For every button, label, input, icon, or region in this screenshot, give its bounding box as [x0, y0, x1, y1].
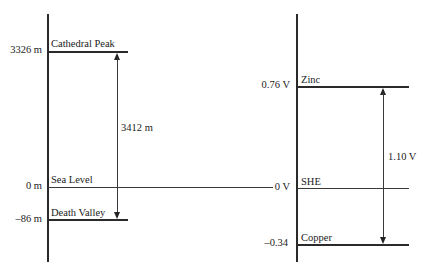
right-level-value-copper: –0.34: [240, 237, 288, 249]
left-level-name-death-valley: Death Valley: [51, 207, 105, 219]
right-vertical-axis: [296, 14, 298, 262]
level-line-death-valley: [48, 219, 128, 221]
left-level-name-cathedral-peak: Cathedral Peak: [51, 38, 115, 50]
level-line-zinc: [297, 86, 409, 88]
right-level-name-copper: Copper: [301, 232, 332, 244]
left-difference-label: 3412 m: [121, 122, 153, 134]
arrow-head-down-icon: [380, 237, 386, 244]
right-level-name-she: SHE: [301, 176, 321, 188]
level-line-copper: [297, 244, 409, 246]
arrow-head-down-icon: [114, 212, 120, 219]
left-level-value-cathedral-peak: 3326 m: [0, 44, 42, 56]
right-level-value-she: 0 V: [240, 181, 290, 193]
energy-level-analogy-diagram: 3326 m Cathedral Peak 0 m Sea Level –86 …: [0, 0, 426, 274]
right-difference-arrow: [383, 93, 384, 238]
left-level-name-sea-level: Sea Level: [51, 174, 93, 186]
right-level-name-zinc: Zinc: [301, 74, 320, 86]
left-difference-arrow: [117, 58, 118, 214]
level-line-she: [297, 188, 409, 189]
left-level-value-sea-level: 0 m: [0, 180, 42, 192]
left-level-value-death-valley: –86 m: [0, 213, 42, 225]
right-difference-label: 1.10 V: [388, 151, 416, 163]
right-level-value-zinc: 0.76 V: [240, 79, 290, 91]
